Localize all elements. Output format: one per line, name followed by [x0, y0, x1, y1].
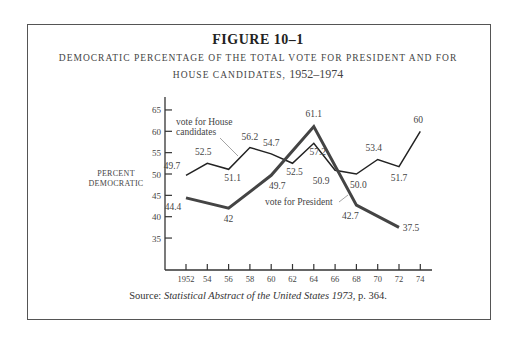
y-tick-label: 40	[152, 212, 162, 222]
source-page: p. 364.	[355, 290, 387, 301]
house-value-label: 54.7	[263, 138, 280, 148]
president-value-label: 42	[224, 214, 234, 224]
y-tick-label: 55	[152, 148, 162, 158]
house-value-label: 57.2	[309, 147, 326, 157]
y-tick-label: 65	[152, 105, 162, 115]
line-chart: 3540455055606519525456586062646668707274…	[0, 0, 516, 338]
house-leader-line	[220, 138, 238, 156]
house-value-label: 50.9	[313, 176, 330, 186]
x-tick-label: 1952	[178, 274, 195, 284]
president-value-label: 49.7	[269, 181, 286, 191]
y-tick-label: 60	[152, 127, 162, 137]
president-value-label: 37.5	[403, 223, 420, 233]
x-tick-label: 56	[224, 274, 233, 284]
x-tick-label: 58	[246, 274, 255, 284]
house-series-label: candidates	[176, 127, 216, 137]
x-tick-label: 54	[203, 274, 212, 284]
x-tick-label: 64	[310, 274, 319, 284]
house-value-label: 49.7	[164, 161, 181, 171]
house-value-label: 50.0	[350, 180, 367, 190]
y-axis-label-line: DEMOCRATIC	[88, 179, 143, 188]
series-annotations: 49.752.551.156.254.752.557.250.950.053.4…	[164, 109, 424, 234]
x-tick-label: 72	[395, 274, 404, 284]
house-value-label: 53.4	[365, 143, 382, 153]
source-title: Statistical Abstract of the United State…	[164, 290, 355, 301]
y-tick-label: 35	[152, 234, 162, 244]
source-citation: Source: Statistical Abstract of the Unit…	[0, 290, 516, 301]
x-tick-label: 70	[373, 274, 382, 284]
house-value-label: 56.2	[242, 132, 259, 142]
x-tick-label: 74	[416, 274, 425, 284]
y-axis-label: PERCENTDEMOCRATIC	[88, 169, 143, 188]
house-value-label: 52.5	[195, 147, 212, 157]
house-value-label: 60	[414, 115, 424, 125]
house-value-label: 51.1	[224, 173, 241, 183]
x-tick-label: 68	[352, 274, 361, 284]
president-value-label: 42.7	[342, 211, 359, 221]
x-tick-label: 60	[267, 274, 276, 284]
house-value-label: 52.5	[286, 167, 303, 177]
president-leader-line	[339, 195, 348, 202]
y-axis-label-line: PERCENT	[97, 169, 135, 178]
source-label: Source:	[129, 290, 164, 301]
president-series-label: vote for President	[265, 197, 333, 207]
x-tick-label: 66	[331, 274, 340, 284]
house-value-label: 51.7	[391, 173, 408, 183]
y-tick-label: 45	[152, 191, 162, 201]
x-tick-label: 62	[288, 274, 297, 284]
y-tick-label: 50	[152, 170, 162, 180]
president-value-label: 44.4	[165, 202, 182, 212]
president-value-label: 61.1	[305, 109, 322, 119]
house-series-label: vote for House	[176, 117, 232, 127]
